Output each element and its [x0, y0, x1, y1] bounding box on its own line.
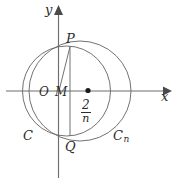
fraction-denominator: n: [81, 113, 91, 124]
point-label-O: O: [39, 86, 49, 98]
y-axis-arrowhead: [54, 5, 63, 15]
fraction-annotation-2-over-n: 2 n: [81, 99, 91, 124]
center-point-dot: [85, 88, 90, 93]
x-axis-label: x: [161, 90, 168, 103]
curve-label-C: C: [23, 129, 33, 142]
curve-label-Cn-subscript: n: [123, 134, 129, 144]
y-axis-label: y: [45, 3, 52, 16]
curve-label-Cn-base: C: [113, 128, 123, 143]
geometry-diagram: [0, 0, 174, 188]
figure-container: y x P Q O M C Cn 2 n: [0, 0, 174, 188]
point-label-M: M: [55, 86, 67, 98]
curve-label-Cn: Cn: [113, 129, 129, 144]
point-label-Q: Q: [65, 140, 76, 153]
point-label-P: P: [66, 32, 75, 45]
fraction-numerator: 2: [81, 99, 91, 111]
